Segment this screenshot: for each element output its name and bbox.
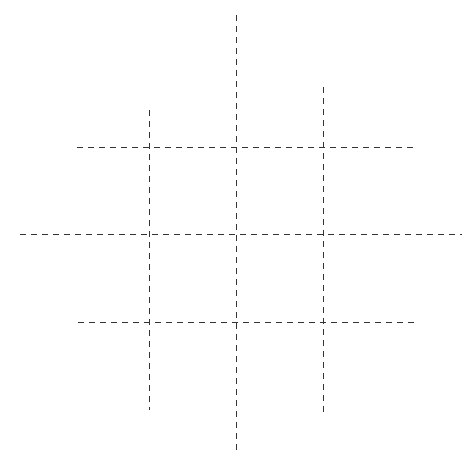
dashed-grid-diagram (0, 0, 474, 470)
